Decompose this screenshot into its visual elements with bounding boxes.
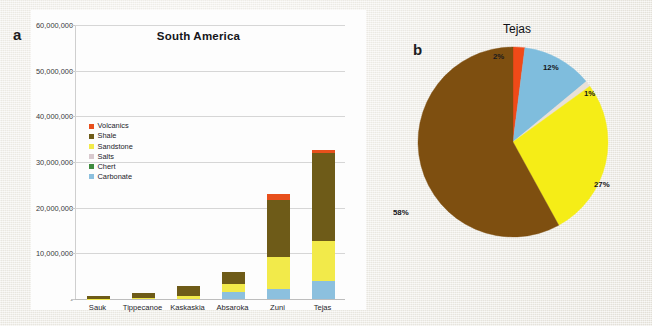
bar-chart-legend: VolcanicsShaleSandstoneSaltsChertCarbona… xyxy=(89,121,133,182)
pie-label-volcanics: 2% xyxy=(493,52,504,61)
legend-swatch-icon xyxy=(89,154,94,159)
pie-label-carbonate: 12% xyxy=(543,63,559,72)
bar-chart-panel: South America -10,000,00020,000,00030,00… xyxy=(31,10,366,310)
bar-segment-sandstone[interactable] xyxy=(312,241,335,281)
legend-swatch-icon xyxy=(89,144,94,149)
legend-label: Chert xyxy=(98,163,116,170)
y-axis-tick-label: 40,000,000 xyxy=(36,112,73,121)
y-axis-tick-label: 50,000,000 xyxy=(36,67,73,76)
y-axis-tick-label: 60,000,000 xyxy=(36,21,73,30)
bar-segment-carbonate[interactable] xyxy=(222,292,245,299)
pie-chart-title: Tejas xyxy=(472,22,562,36)
y-axis-tick-mark xyxy=(71,162,75,163)
bar-group[interactable] xyxy=(312,25,335,299)
legend-item-shale[interactable]: Shale xyxy=(89,131,133,141)
legend-item-carbonate[interactable]: Carbonate xyxy=(89,171,133,181)
legend-item-volcanics[interactable]: Volcanics xyxy=(89,121,133,131)
legend-label: Shale xyxy=(98,132,117,139)
legend-swatch-icon xyxy=(89,174,94,179)
pie-label-shale: 58% xyxy=(393,208,409,217)
bar-segment-shale[interactable] xyxy=(267,200,290,258)
pie-chart-svg xyxy=(417,46,609,238)
y-axis-tick-label: 20,000,000 xyxy=(36,204,73,213)
y-axis-tick-mark xyxy=(71,25,75,26)
legend-swatch-icon xyxy=(89,134,94,139)
bar-segment-shale[interactable] xyxy=(87,296,110,298)
bar-segment-sandstone[interactable] xyxy=(132,298,155,299)
pie-label-salts: 1% xyxy=(584,89,595,98)
bar-group[interactable] xyxy=(177,25,200,299)
y-axis-tick-mark xyxy=(71,208,75,209)
bar-segment-volcanics[interactable] xyxy=(312,150,335,153)
y-axis-labels: -10,000,00020,000,00030,000,00040,000,00… xyxy=(31,25,73,299)
legend-item-chert[interactable]: Chert xyxy=(89,161,133,171)
pie-chart xyxy=(417,46,609,238)
bar-segment-shale[interactable] xyxy=(312,153,335,241)
legend-swatch-icon xyxy=(89,124,94,129)
pie-label-sandstone: 27% xyxy=(594,180,610,189)
y-axis-tick-mark xyxy=(71,253,75,254)
y-axis-tick-label: 10,000,000 xyxy=(36,249,73,258)
x-axis-tick-label: Tejas xyxy=(283,303,363,312)
legend-item-salts[interactable]: Salts xyxy=(89,151,133,161)
bar-segment-carbonate[interactable] xyxy=(312,281,335,299)
legend-label: Sandstone xyxy=(98,143,133,150)
bar-segment-sandstone[interactable] xyxy=(177,296,200,299)
legend-swatch-icon xyxy=(89,164,94,169)
bar-segment-sandstone[interactable] xyxy=(267,257,290,289)
legend-label: Volcanics xyxy=(98,122,129,129)
y-axis-tick-label: 30,000,000 xyxy=(36,158,73,167)
y-axis-tick-mark xyxy=(71,116,75,117)
legend-item-sandstone[interactable]: Sandstone xyxy=(89,141,133,151)
y-axis-tick-mark xyxy=(71,299,75,300)
bar-segment-shale[interactable] xyxy=(222,272,245,285)
legend-label: Salts xyxy=(98,153,114,160)
bar-segment-sandstone[interactable] xyxy=(222,284,245,292)
bar-group[interactable] xyxy=(267,25,290,299)
y-axis-tick-mark xyxy=(71,71,75,72)
bar-segment-shale[interactable] xyxy=(177,286,200,297)
bar-segment-shale[interactable] xyxy=(132,293,155,298)
panel-a-letter: a xyxy=(13,26,21,43)
bar-segment-carbonate[interactable] xyxy=(267,289,290,299)
gridline xyxy=(75,299,345,300)
bar-segment-volcanics[interactable] xyxy=(267,194,290,200)
legend-label: Carbonate xyxy=(98,173,133,180)
bar-group[interactable] xyxy=(132,25,155,299)
bar-group[interactable] xyxy=(222,25,245,299)
